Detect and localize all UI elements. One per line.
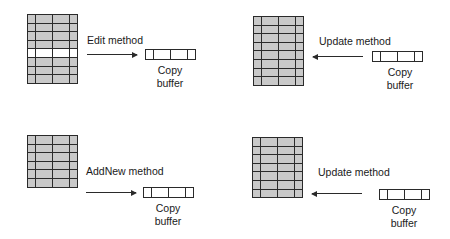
recordset-grid — [27, 135, 78, 188]
method-label: Update method — [318, 167, 390, 178]
arrow-right-icon — [87, 54, 137, 55]
copy-buffer — [372, 51, 423, 62]
recordset-grid — [252, 137, 303, 198]
copy-buffer-caption: Copy buffer — [380, 66, 420, 92]
method-label: AddNew method — [86, 166, 164, 177]
recordset-grid — [253, 16, 304, 86]
copy-buffer — [145, 49, 196, 60]
method-label: Update method — [319, 36, 391, 47]
current-record-row — [28, 49, 78, 58]
copy-buffer — [379, 189, 430, 200]
arrow-left-icon — [312, 193, 362, 194]
copy-buffer-caption: Copy buffer — [148, 202, 188, 228]
arrow-left-icon — [313, 56, 363, 57]
recordset-grid — [27, 14, 78, 84]
method-label: Edit method — [87, 35, 143, 46]
copy-buffer-caption: Copy buffer — [384, 204, 424, 230]
copy-buffer-caption: Copy buffer — [150, 64, 190, 90]
copy-buffer — [143, 187, 194, 198]
arrow-right-icon — [86, 192, 136, 193]
